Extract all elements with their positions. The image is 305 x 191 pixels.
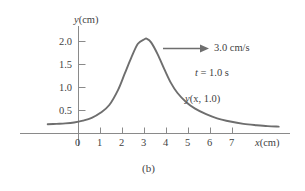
time-annotation-value: = 1.0 s [198, 67, 229, 78]
y-tick-label-2-0: 2.0 [46, 37, 72, 48]
x-axis-title-unit: (cm) [260, 137, 280, 148]
velocity-arrow-icon [163, 45, 209, 53]
figure-caption: (b) [142, 163, 155, 174]
figure-container: 2.0 1.5 1.0 0.5 0 1 2 3 4 5 6 7 y(cm) x(… [0, 0, 305, 191]
x-tick-label-6: 6 [207, 138, 212, 149]
y-axis-title-unit: (cm) [79, 14, 99, 25]
curve-label-args: (x, 1.0) [190, 93, 221, 104]
y-tick-label-1-5: 1.5 [46, 60, 72, 71]
y-axis-title: y(cm) [74, 15, 99, 26]
y-tick-label-1-0: 1.0 [46, 83, 72, 94]
x-tick-label-7: 7 [229, 138, 234, 149]
curve-label: y(x, 1.0) [185, 94, 220, 105]
y-axis-ticks [79, 42, 86, 111]
x-tick-label-2: 2 [119, 138, 124, 149]
x-axis-ticks [79, 128, 233, 134]
x-tick-label-3: 3 [141, 138, 146, 149]
x-tick-label-4: 4 [163, 138, 168, 149]
x-tick-label-0: 0 [75, 138, 80, 149]
time-annotation-label: t = 1.0 s [195, 68, 229, 79]
y-tick-label-0-5: 0.5 [46, 106, 72, 117]
x-tick-label-1: 1 [97, 138, 102, 149]
x-tick-label-5: 5 [185, 138, 190, 149]
velocity-annotation-label: 3.0 cm/s [214, 43, 250, 54]
x-axis-title: x(cm) [255, 138, 280, 149]
